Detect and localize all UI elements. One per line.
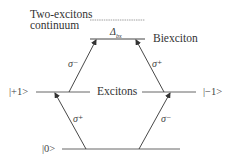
continuum-label-line2: continuum [30,20,79,32]
binding-energy-label: Δbx [110,27,122,39]
state-plus-label: |+1> [9,87,28,98]
sigma-upper-left-label: σ⁻ [68,59,78,69]
biexciton-label: Biexciton [153,33,198,45]
state-ground-label: |0> [42,144,55,155]
sigma-lower-left-label: σ⁺ [73,114,83,124]
energy-level-diagram: Two-excitons continuum Δbx Biexciton σ⁻ … [0,0,232,158]
state-minus-label: |−1> [203,87,222,98]
sigma-upper-right-label: σ⁺ [152,59,162,69]
sigma-lower-right-label: σ⁻ [161,114,171,124]
excitons-label: Excitons [97,86,137,98]
